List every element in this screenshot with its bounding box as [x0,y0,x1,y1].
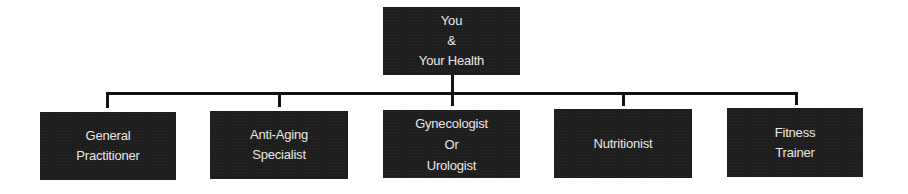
root-line-3: Your Health [419,51,484,71]
node-anti-aging-specialist: Anti-Aging Specialist [210,111,348,179]
drop-connector-nutritionist [622,92,625,106]
node-line-1: Gynecologist [415,113,488,134]
node-line-1: Fitness [775,123,816,143]
root-line-1: You [441,11,462,31]
node-line-3: Urologist [427,155,477,176]
node-line-1: Anti-Aging [250,125,308,145]
node-line-2: Practitioner [76,146,139,166]
root-node-you-and-your-health: You & Your Health [383,7,520,75]
node-general-practitioner: General Practitioner [40,112,176,180]
node-line-2: Specialist [252,145,306,165]
node-line-1: Nutritionist [593,134,652,154]
root-line-2: & [447,31,455,51]
drop-connector-gynecologist [451,92,454,106]
drop-connector-fitness-trainer [795,92,798,105]
node-line-2: Or [444,134,458,155]
node-gynecologist-or-urologist: Gynecologist Or Urologist [383,110,520,178]
drop-connector-general-practitioner [106,92,109,108]
drop-connector-anti-aging [278,92,281,107]
node-line-1: General [86,126,131,146]
node-line-2: Trainer [775,143,814,163]
node-nutritionist: Nutritionist [554,109,692,178]
node-fitness-trainer: Fitness Trainer [727,108,863,177]
